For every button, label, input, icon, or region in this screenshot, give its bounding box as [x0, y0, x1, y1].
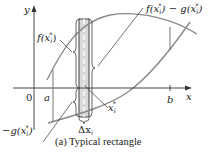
y-axis-label: y — [23, 4, 30, 15]
f-minus-g-label: f(xi*) − g(xi*) — [145, 2, 203, 16]
xi-star-label: xi* — [108, 100, 117, 115]
x-axis-label: x — [186, 91, 192, 102]
typical-rectangle — [79, 19, 89, 117]
neg-g-label: −g(xi*) — [2, 124, 33, 138]
a-label: a — [44, 92, 50, 103]
b-label: b — [167, 94, 173, 105]
curve-g — [48, 22, 190, 123]
axes — [13, 5, 192, 130]
y-axis-arrow-icon — [32, 5, 37, 12]
curve-f — [47, 14, 197, 80]
f-value-label: f(xi*) — [36, 31, 57, 45]
origin-label: 0 — [26, 92, 32, 103]
area-between-curves-diagram: y x 0 a b f(xi*) f(xi*) − g(xi*) −g(xi*)… — [0, 0, 219, 153]
leader-lines — [43, 8, 143, 142]
x-axis-arrow-icon — [185, 86, 192, 91]
figure-caption: (a) Typical rectangle — [55, 136, 142, 148]
